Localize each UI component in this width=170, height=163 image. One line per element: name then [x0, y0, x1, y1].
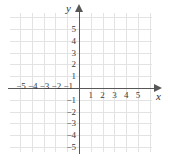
- x-axis-label: x: [156, 90, 161, 102]
- x-tick-label: −5: [15, 82, 27, 91]
- grid-line-horizontal: [10, 147, 152, 148]
- grid-line-horizontal: [10, 64, 152, 65]
- x-tick-label: 5: [132, 91, 144, 100]
- y-tick-label: −3: [62, 119, 76, 128]
- grid-line-horizontal: [10, 135, 152, 136]
- grid-line-vertical: [114, 13, 115, 152]
- y-tick-label: −4: [62, 131, 76, 140]
- y-tick-label: −5: [62, 143, 76, 152]
- grid-line-vertical: [126, 13, 127, 152]
- grid-line-vertical: [103, 13, 104, 152]
- y-tick-label: −1: [62, 96, 76, 105]
- grid-line-horizontal: [10, 53, 152, 54]
- y-tick-label: 1: [64, 72, 76, 81]
- x-tick-label: 4: [120, 91, 132, 100]
- x-tick-label: −2: [50, 82, 62, 91]
- grid-line-horizontal: [10, 100, 152, 101]
- grid-line-horizontal: [10, 17, 152, 18]
- y-axis-label: y: [66, 2, 71, 14]
- grid-line-horizontal: [10, 123, 152, 124]
- y-tick-label: −2: [62, 108, 76, 117]
- grid-line-horizontal: [10, 41, 152, 42]
- y-tick-label: 4: [64, 37, 76, 46]
- y-tick-label: 5: [64, 25, 76, 34]
- grid-line-horizontal: [10, 29, 152, 30]
- x-tick-label: 3: [108, 91, 120, 100]
- x-tick-label: −1: [62, 82, 74, 91]
- grid-line-horizontal: [10, 112, 152, 113]
- grid-line-vertical: [150, 13, 151, 152]
- grid-line-vertical: [91, 13, 92, 152]
- x-tick-label: 1: [85, 91, 97, 100]
- y-tick-label: 3: [64, 49, 76, 58]
- y-tick-label: 2: [64, 60, 76, 69]
- x-tick-label: −3: [39, 82, 51, 91]
- grid-line-horizontal: [10, 76, 152, 77]
- y-axis: [79, 10, 80, 154]
- coordinate-plane: y x −5−4−3−2−11234554321−1−2−3−4−5: [0, 0, 170, 163]
- x-tick-label: −4: [27, 82, 39, 91]
- y-axis-arrow-icon: [75, 4, 83, 12]
- x-tick-label: 2: [97, 91, 109, 100]
- grid-line-vertical: [138, 13, 139, 152]
